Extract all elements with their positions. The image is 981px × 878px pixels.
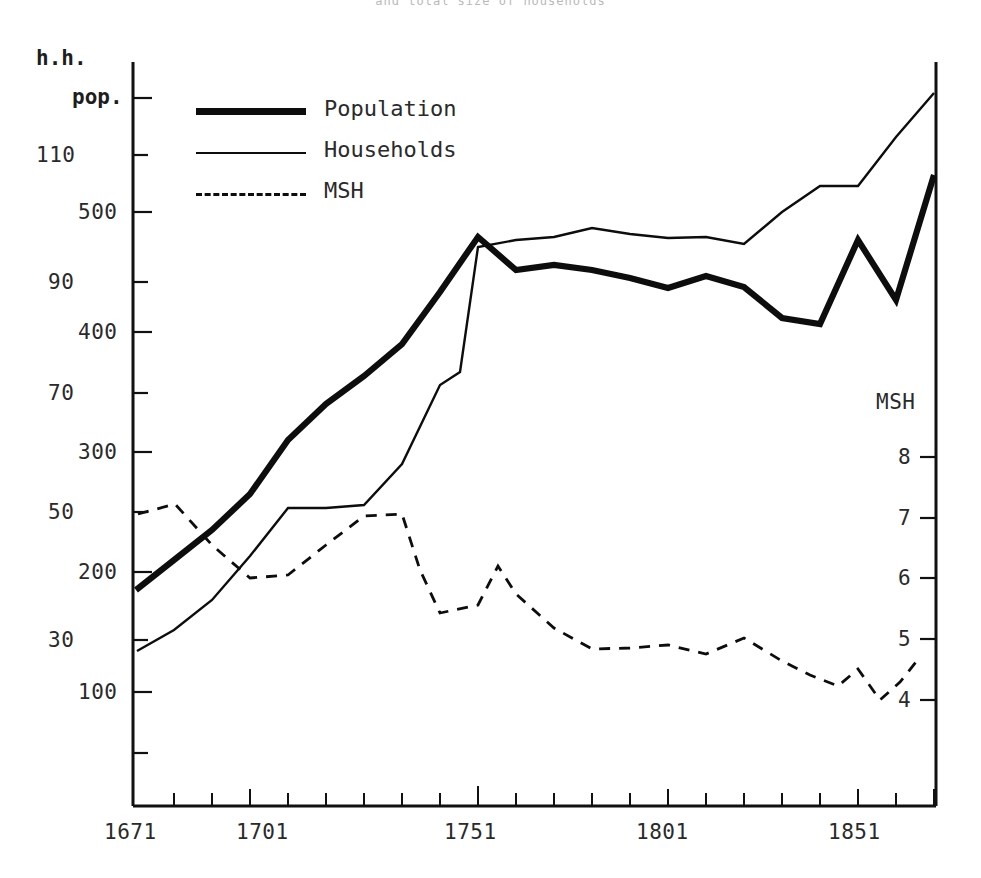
hh-tick-90: 90: [48, 270, 74, 294]
series-households-line: [137, 93, 934, 651]
chart-canvas: and total size of households: [0, 0, 981, 878]
x-tick-1671: 1671: [104, 820, 157, 844]
pop-tick-500: 500: [78, 200, 117, 224]
hh-tick-70: 70: [48, 381, 74, 405]
pop-tick-100: 100: [78, 680, 117, 704]
series-msh-line: [138, 504, 920, 700]
msh-tick-7: 7: [898, 506, 911, 530]
pop-tick-400: 400: [78, 320, 117, 344]
right-axis-label-msh: MSH: [876, 390, 915, 414]
msh-tick-5: 5: [898, 627, 911, 651]
msh-tick-4: 4: [898, 688, 911, 712]
left-axis-label-pop: pop.: [72, 85, 123, 109]
legend-swatch-population-icon: [196, 108, 306, 115]
hh-tick-110: 110: [36, 143, 75, 167]
legend-label-households: Households: [324, 137, 456, 162]
hh-tick-50: 50: [48, 500, 74, 524]
chart-svg: [0, 0, 981, 878]
legend-swatch-households-icon: [196, 152, 306, 154]
x-tick-1801: 1801: [636, 820, 689, 844]
msh-tick-8: 8: [898, 445, 911, 469]
x-tick-1851: 1851: [828, 820, 881, 844]
x-tick-1701: 1701: [236, 820, 289, 844]
right-tick-group: [920, 457, 936, 700]
legend-label-population: Population: [324, 96, 456, 121]
x-tick-group: [174, 786, 934, 806]
msh-tick-6: 6: [898, 566, 911, 590]
pop-tick-300: 300: [78, 440, 117, 464]
x-tick-1751: 1751: [444, 820, 497, 844]
left-tick-group: [133, 98, 152, 753]
left-axis-label-hh: h.h.: [36, 46, 87, 70]
pop-tick-200: 200: [78, 560, 117, 584]
legend-label-msh: MSH: [324, 178, 364, 203]
series-population-line: [136, 175, 934, 590]
legend-swatch-msh-icon: [196, 193, 306, 196]
hh-tick-30: 30: [48, 628, 74, 652]
